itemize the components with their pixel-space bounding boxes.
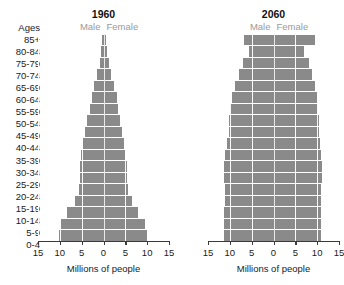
x-axis-tick [125,241,126,245]
x-axis-tick [274,241,275,245]
pyramid-row [208,80,339,92]
legend-1960: Male Female [38,21,169,33]
bar-female [274,219,322,229]
pyramid-row [38,149,169,161]
bar-female [104,81,114,91]
x-tick-labels-2060: 15105051015 [208,247,339,259]
pyramid-row [208,149,339,161]
bar-male [224,207,273,217]
pyramid-row [208,69,339,81]
pyramid-row [208,57,339,69]
pyramid-row [208,103,339,115]
gridline [169,34,170,241]
bar-female [104,127,122,137]
pyramid-row [38,57,169,69]
pyramid-row [208,46,339,58]
bar-male [232,92,274,102]
bar-male [85,127,103,137]
panel-title-2060: 2060 [208,8,339,20]
bar-female [104,104,119,114]
bar-female [274,69,313,79]
panel-title-1960: 1960 [38,8,169,20]
x-axis-tick [104,241,105,245]
bar-male [224,230,274,240]
bar-female [274,115,319,125]
bar-male [80,173,104,183]
bar-female [274,81,315,91]
x-tick-label: 5 [293,247,298,258]
x-tick-label: 15 [334,247,344,258]
bar-male [229,115,274,125]
x-axis-tick [38,241,39,245]
pyramid-row [38,195,169,207]
x-axis-title-2060: Millions of people [208,263,339,274]
pyramid-row [38,80,169,92]
bar-female [274,173,322,183]
bar-male [229,127,274,137]
x-axis-tick [230,241,231,245]
bar-female [274,35,315,45]
x-tick-label: 10 [142,247,153,258]
bar-female [274,196,321,206]
x-axis-tick [208,241,209,245]
pyramid-row [208,34,339,46]
x-tick-label: 0 [101,247,106,258]
bar-female [274,104,319,114]
bar-male [81,150,103,160]
legend-male-label: Male [80,21,101,32]
bar-male [230,104,274,114]
pyramid-row [38,34,169,46]
pyramid-row [38,172,169,184]
pyramid-row [38,46,169,58]
bar-female [274,230,322,240]
pyramid-row [208,207,339,219]
pyramid-row [38,218,169,230]
legend-female-label: Female [277,21,309,32]
pyramid-row [38,103,169,115]
bar-female [104,35,106,45]
pyramid-row [38,69,169,81]
x-tick-labels-1960: 15105051015 [38,247,169,259]
x-axis-tick [317,241,318,245]
bar-male [59,230,104,240]
bar-female [104,138,124,148]
bar-female [104,92,117,102]
pyramid-row [38,207,169,219]
bar-female [104,161,127,171]
bar-female [104,230,147,240]
bar-male [90,104,104,114]
bar-female [104,196,132,206]
pyramid-row [208,172,339,184]
bar-female [274,138,320,148]
bar-female [274,150,322,160]
x-axis-tick [339,241,340,245]
x-tick-label: 5 [249,247,254,258]
bar-male [225,184,274,194]
bar-male [92,92,104,102]
x-tick-label: 15 [33,247,44,258]
pyramid-row [208,115,339,127]
x-tick-label: 10 [225,247,236,258]
bar-female [104,173,128,183]
pyramid-row [208,195,339,207]
pyramid-row [38,230,169,242]
bar-male [75,196,104,206]
bar-male [235,81,274,91]
legend-male-label: Male [250,21,271,32]
x-axis-title-1960: Millions of people [38,263,169,274]
pyramid-row [208,161,339,173]
x-axis-tick [147,241,148,245]
pyramid-row [38,184,169,196]
bar-male [67,207,103,217]
bar-male [83,138,103,148]
plot-area-2060 [208,34,339,241]
x-tick-label: 5 [79,247,84,258]
x-tick-label: 15 [164,247,175,258]
x-tick-label: 5 [123,247,128,258]
pyramid-row [208,218,339,230]
bar-male [61,219,104,229]
bar-female [104,69,112,79]
x-axis-tick [82,241,83,245]
bar-female [274,184,322,194]
